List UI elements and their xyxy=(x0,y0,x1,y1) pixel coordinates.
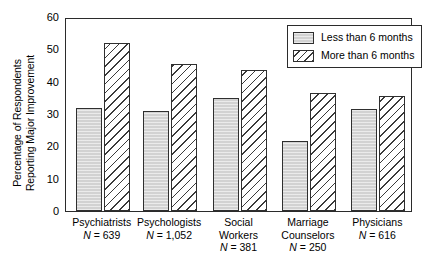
plot-frame: Less than 6 months More than 6 months xyxy=(65,18,412,212)
bar xyxy=(76,108,102,211)
x-category-name: Physicians xyxy=(332,216,422,229)
y-tick-label: 60 xyxy=(33,12,59,23)
y-tick-label: 50 xyxy=(33,44,59,55)
y-tick-label: 30 xyxy=(33,109,59,120)
bar xyxy=(143,111,169,211)
legend-label-less-than-6-months: Less than 6 months xyxy=(321,32,413,43)
bar-group xyxy=(76,19,130,211)
bar xyxy=(310,93,336,211)
bar xyxy=(241,70,267,211)
y-axis-title-line-1: Percentage of Respondents xyxy=(11,18,24,228)
legend-item-less-than-6-months: Less than 6 months xyxy=(293,30,414,45)
legend-swatch-solid-icon xyxy=(293,32,314,44)
x-category-sample-size: N = 616 xyxy=(332,229,422,242)
legend-swatch-hatch-icon xyxy=(293,50,314,62)
bar xyxy=(104,43,130,211)
bar xyxy=(282,141,308,211)
x-category-sample-size: N = 250 xyxy=(263,241,353,254)
bar xyxy=(351,109,377,211)
bar-group xyxy=(213,19,267,211)
y-tick-label: 0 xyxy=(33,206,59,217)
legend-label-more-than-6-months: More than 6 months xyxy=(321,50,414,61)
y-tick-label: 20 xyxy=(33,141,59,152)
bar xyxy=(213,98,239,211)
y-tick-label: 10 xyxy=(33,174,59,185)
bar xyxy=(379,96,405,211)
x-category-label: PhysiciansN = 616 xyxy=(332,216,422,241)
y-tick-label: 40 xyxy=(33,77,59,88)
legend-item-more-than-6-months: More than 6 months xyxy=(293,48,414,63)
chart-legend: Less than 6 months More than 6 months xyxy=(287,25,422,68)
bar-group xyxy=(143,19,197,211)
bar xyxy=(171,64,197,211)
